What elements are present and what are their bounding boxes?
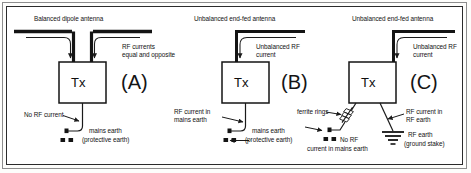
panel-a-no-rf-current-label: No RF current bbox=[24, 111, 63, 119]
panel-c-no-rf-label: No RF bbox=[340, 136, 358, 144]
panel-c-incoming-pointer bbox=[305, 127, 322, 131]
panel-a-antenna-title: Balanced dipole antenna bbox=[34, 15, 103, 23]
panel-c-ground-stake-symbol bbox=[382, 132, 404, 144]
panel-b-protective-earth-label: (protective earth) bbox=[245, 136, 292, 144]
panel-b-earth-lead bbox=[231, 103, 246, 131]
panel-c-ground-stake-label: (ground stake) bbox=[404, 140, 445, 148]
panel-a-current-label: RF currents equal and opposite bbox=[122, 43, 175, 58]
panel-b-rf-current-pointer bbox=[222, 117, 243, 122]
panel-c-rf-earth-current-pointer bbox=[388, 114, 404, 119]
antenna-earthing-figure: Balanced dipole antenna RF currents equa… bbox=[0, 0, 471, 173]
panel-a-protective-earth-label: (protective earth) bbox=[82, 136, 129, 144]
panel-a-tx-label: Tx bbox=[71, 76, 85, 89]
panel-a-no-rf-pointer bbox=[63, 116, 79, 122]
panel-b-tx-label: Tx bbox=[234, 76, 248, 89]
panel-b-antenna-title: Unbalanced end-fed antenna bbox=[194, 15, 275, 23]
panel-a-mains-earth-label: mains earth bbox=[89, 127, 122, 135]
panel-c-letter: (C) bbox=[410, 72, 438, 92]
panel-c-tx-label: Tx bbox=[361, 76, 375, 89]
panel-b-current-label: Unbalanced RF current bbox=[256, 43, 300, 58]
panel-c-no-rf-current-label: current in mains earth bbox=[307, 145, 368, 153]
panel-c-ferrite-rings bbox=[340, 107, 354, 122]
panel-c-rf-earth-label: RF earth bbox=[408, 131, 432, 139]
panel-c-rf-earth-lead bbox=[380, 103, 393, 131]
panel-a-letter: (A) bbox=[121, 72, 148, 92]
panel-a-earth-lead bbox=[68, 103, 83, 131]
panel-c-ferrite-label: ferrite rings bbox=[297, 108, 328, 116]
panel-c-rf-earth-current-label: RF current in RF earth bbox=[406, 108, 442, 123]
panel-b-mains-earth-label: mains earth bbox=[252, 127, 285, 135]
panel-b-rf-current-label: RF current in mains earth bbox=[174, 108, 210, 123]
panel-c-current-label: Unbalanced RF current bbox=[413, 43, 457, 58]
panel-c-antenna-title: Unbalanced end-fed antenna bbox=[352, 15, 433, 23]
panel-b-letter: (B) bbox=[281, 72, 308, 92]
